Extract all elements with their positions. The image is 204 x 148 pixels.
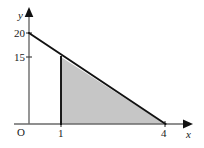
y-axis-label: y	[18, 10, 23, 21]
x-tick-label-4: 4	[161, 128, 167, 139]
figure-container: 20 15 1 4 O y x	[0, 0, 204, 148]
y-tick-label-20: 20	[14, 28, 25, 39]
y-tick-label-15: 15	[14, 52, 25, 63]
line-graph-plot	[0, 0, 204, 148]
y-axis-arrow-icon	[25, 7, 34, 17]
x-axis-label: x	[186, 129, 191, 140]
x-tick-label-1: 1	[58, 128, 64, 139]
origin-label: O	[17, 127, 25, 138]
